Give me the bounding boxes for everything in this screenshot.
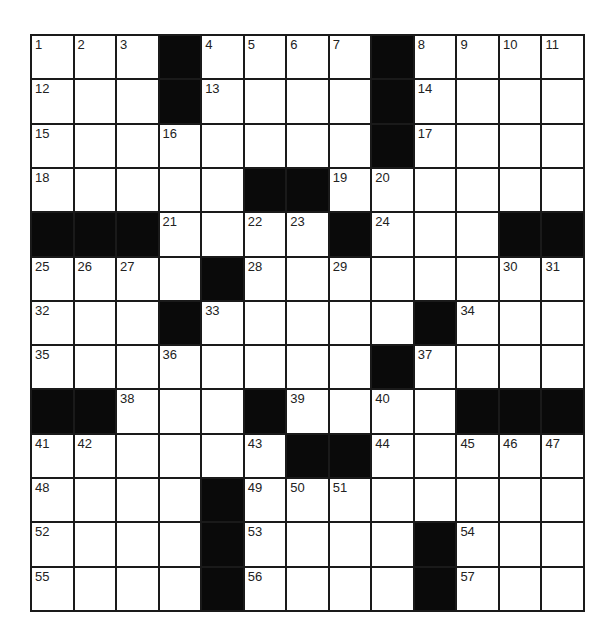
grid-cell[interactable] bbox=[330, 390, 371, 432]
grid-cell[interactable] bbox=[415, 435, 456, 477]
grid-cell[interactable] bbox=[245, 302, 286, 344]
grid-cell[interactable]: 4 bbox=[202, 36, 243, 78]
grid-cell[interactable]: 5 bbox=[245, 36, 286, 78]
grid-cell[interactable]: 11 bbox=[542, 36, 583, 78]
grid-cell[interactable]: 21 bbox=[160, 213, 201, 255]
grid-cell[interactable]: 29 bbox=[330, 258, 371, 300]
grid-cell[interactable] bbox=[372, 302, 413, 344]
grid-cell[interactable] bbox=[415, 213, 456, 255]
grid-cell[interactable] bbox=[457, 125, 498, 167]
grid-cell[interactable]: 41 bbox=[32, 435, 73, 477]
grid-cell[interactable] bbox=[372, 568, 413, 610]
grid-cell[interactable] bbox=[202, 213, 243, 255]
grid-cell[interactable] bbox=[117, 169, 158, 211]
grid-cell[interactable] bbox=[500, 523, 541, 565]
grid-cell[interactable] bbox=[160, 390, 201, 432]
grid-cell[interactable]: 7 bbox=[330, 36, 371, 78]
grid-cell[interactable]: 30 bbox=[500, 258, 541, 300]
grid-cell[interactable] bbox=[117, 125, 158, 167]
grid-cell[interactable]: 40 bbox=[372, 390, 413, 432]
grid-cell[interactable] bbox=[542, 302, 583, 344]
grid-cell[interactable] bbox=[287, 346, 328, 388]
grid-cell[interactable] bbox=[415, 258, 456, 300]
grid-cell[interactable] bbox=[500, 169, 541, 211]
grid-cell[interactable]: 6 bbox=[287, 36, 328, 78]
grid-cell[interactable] bbox=[372, 479, 413, 521]
grid-cell[interactable] bbox=[330, 80, 371, 122]
grid-cell[interactable] bbox=[75, 523, 116, 565]
grid-cell[interactable]: 14 bbox=[415, 80, 456, 122]
grid-cell[interactable]: 17 bbox=[415, 125, 456, 167]
grid-cell[interactable]: 1 bbox=[32, 36, 73, 78]
grid-cell[interactable]: 50 bbox=[287, 479, 328, 521]
grid-cell[interactable]: 32 bbox=[32, 302, 73, 344]
grid-cell[interactable]: 20 bbox=[372, 169, 413, 211]
grid-cell[interactable] bbox=[245, 125, 286, 167]
grid-cell[interactable] bbox=[500, 125, 541, 167]
grid-cell[interactable]: 44 bbox=[372, 435, 413, 477]
grid-cell[interactable]: 12 bbox=[32, 80, 73, 122]
grid-cell[interactable] bbox=[160, 523, 201, 565]
grid-cell[interactable] bbox=[372, 258, 413, 300]
grid-cell[interactable]: 45 bbox=[457, 435, 498, 477]
grid-cell[interactable] bbox=[160, 435, 201, 477]
grid-cell[interactable] bbox=[287, 302, 328, 344]
grid-cell[interactable] bbox=[117, 435, 158, 477]
grid-cell[interactable]: 8 bbox=[415, 36, 456, 78]
grid-cell[interactable]: 25 bbox=[32, 258, 73, 300]
grid-cell[interactable] bbox=[287, 523, 328, 565]
grid-cell[interactable]: 43 bbox=[245, 435, 286, 477]
grid-cell[interactable] bbox=[75, 302, 116, 344]
grid-cell[interactable] bbox=[287, 258, 328, 300]
grid-cell[interactable]: 13 bbox=[202, 80, 243, 122]
grid-cell[interactable] bbox=[75, 479, 116, 521]
grid-cell[interactable]: 47 bbox=[542, 435, 583, 477]
grid-cell[interactable] bbox=[542, 346, 583, 388]
grid-cell[interactable] bbox=[75, 169, 116, 211]
grid-cell[interactable] bbox=[457, 346, 498, 388]
grid-cell[interactable] bbox=[542, 169, 583, 211]
grid-cell[interactable]: 3 bbox=[117, 36, 158, 78]
grid-cell[interactable]: 36 bbox=[160, 346, 201, 388]
grid-cell[interactable]: 55 bbox=[32, 568, 73, 610]
grid-cell[interactable] bbox=[202, 169, 243, 211]
grid-cell[interactable] bbox=[160, 568, 201, 610]
grid-cell[interactable]: 39 bbox=[287, 390, 328, 432]
grid-cell[interactable]: 52 bbox=[32, 523, 73, 565]
grid-cell[interactable]: 56 bbox=[245, 568, 286, 610]
grid-cell[interactable] bbox=[457, 80, 498, 122]
grid-cell[interactable]: 24 bbox=[372, 213, 413, 255]
grid-cell[interactable]: 54 bbox=[457, 523, 498, 565]
grid-cell[interactable]: 26 bbox=[75, 258, 116, 300]
grid-cell[interactable] bbox=[500, 346, 541, 388]
grid-cell[interactable]: 2 bbox=[75, 36, 116, 78]
grid-cell[interactable] bbox=[330, 125, 371, 167]
grid-cell[interactable] bbox=[457, 258, 498, 300]
grid-cell[interactable]: 51 bbox=[330, 479, 371, 521]
grid-cell[interactable]: 49 bbox=[245, 479, 286, 521]
grid-cell[interactable] bbox=[117, 302, 158, 344]
grid-cell[interactable] bbox=[542, 479, 583, 521]
grid-cell[interactable] bbox=[500, 302, 541, 344]
grid-cell[interactable]: 15 bbox=[32, 125, 73, 167]
grid-cell[interactable] bbox=[75, 568, 116, 610]
grid-cell[interactable]: 31 bbox=[542, 258, 583, 300]
grid-cell[interactable]: 34 bbox=[457, 302, 498, 344]
grid-cell[interactable] bbox=[415, 479, 456, 521]
grid-cell[interactable]: 27 bbox=[117, 258, 158, 300]
grid-cell[interactable] bbox=[202, 390, 243, 432]
grid-cell[interactable] bbox=[457, 213, 498, 255]
grid-cell[interactable]: 22 bbox=[245, 213, 286, 255]
grid-cell[interactable] bbox=[245, 80, 286, 122]
grid-cell[interactable] bbox=[117, 479, 158, 521]
grid-cell[interactable] bbox=[457, 169, 498, 211]
grid-cell[interactable] bbox=[415, 169, 456, 211]
grid-cell[interactable]: 53 bbox=[245, 523, 286, 565]
grid-cell[interactable]: 19 bbox=[330, 169, 371, 211]
grid-cell[interactable] bbox=[117, 80, 158, 122]
grid-cell[interactable] bbox=[500, 568, 541, 610]
grid-cell[interactable] bbox=[330, 568, 371, 610]
grid-cell[interactable] bbox=[75, 125, 116, 167]
grid-cell[interactable] bbox=[245, 346, 286, 388]
grid-cell[interactable]: 35 bbox=[32, 346, 73, 388]
